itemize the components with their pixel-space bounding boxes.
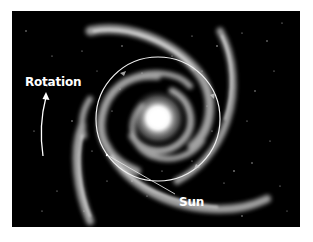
galaxy-illustration bbox=[12, 11, 300, 227]
sun-label: Sun bbox=[179, 196, 204, 208]
galaxy-diagram: Rotation Sun bbox=[12, 11, 300, 227]
sun-marker bbox=[106, 154, 108, 156]
rotation-label: Rotation bbox=[25, 76, 81, 88]
rotation-arrow-icon bbox=[41, 92, 49, 156]
